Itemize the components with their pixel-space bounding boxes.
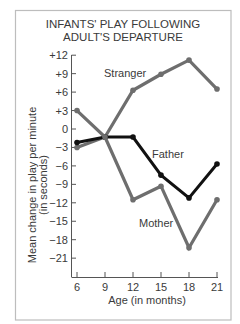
data-point-father xyxy=(214,161,220,167)
y-tick-label: −15 xyxy=(49,215,68,227)
data-point-mother xyxy=(130,197,136,203)
series-label-mother: Mother xyxy=(139,217,174,229)
series-label-father: Father xyxy=(152,148,184,160)
data-point-mother xyxy=(214,197,220,203)
y-tick-label: +6 xyxy=(55,86,68,98)
data-point-mother xyxy=(186,245,192,251)
data-point-stranger xyxy=(214,86,220,92)
data-point-stranger xyxy=(130,87,136,93)
y-axis-label-line-2: (in seconds) xyxy=(37,155,49,215)
y-tick-label: −6 xyxy=(55,160,68,172)
y-tick-label: −12 xyxy=(49,197,68,209)
data-point-father xyxy=(158,172,164,178)
data-point-stranger xyxy=(158,71,164,77)
data-point-mother xyxy=(158,183,164,189)
y-tick-label: +3 xyxy=(55,105,68,117)
series-label-stranger: Stranger xyxy=(104,67,147,79)
x-tick-label: 12 xyxy=(127,281,139,293)
data-point-mother xyxy=(74,108,80,114)
data-point-stranger xyxy=(74,145,80,151)
data-point-mother xyxy=(102,134,108,140)
chart-title-line-1: INFANTS' PLAY FOLLOWING xyxy=(46,18,201,30)
x-tick-label: 18 xyxy=(183,281,195,293)
chart: INFANTS' PLAY FOLLOWING ADULT'S DEPARTUR… xyxy=(0,0,240,324)
y-tick-label: −18 xyxy=(49,234,68,246)
data-point-father xyxy=(186,195,192,201)
x-tick-label: 9 xyxy=(102,281,108,293)
data-point-stranger xyxy=(186,57,192,63)
y-tick-label: −3 xyxy=(55,141,68,153)
y-tick-label: 0 xyxy=(62,123,68,135)
data-point-father xyxy=(74,140,80,146)
data-point-father xyxy=(130,134,136,140)
y-tick-label: −21 xyxy=(49,252,68,264)
x-axis-label: Age (in months) xyxy=(108,294,186,306)
x-tick-label: 6 xyxy=(74,281,80,293)
chart-title-line-2: ADULT'S DEPARTURE xyxy=(63,31,183,43)
y-tick-label: +12 xyxy=(49,49,68,61)
x-tick-label: 21 xyxy=(211,281,223,293)
x-tick-label: 15 xyxy=(155,281,167,293)
y-tick-label: −9 xyxy=(55,178,68,190)
y-tick-label: +9 xyxy=(55,68,68,80)
